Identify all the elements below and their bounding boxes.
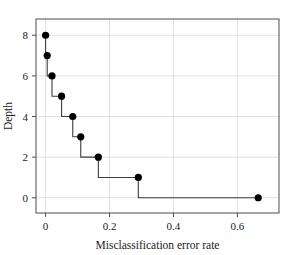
data-point (69, 113, 76, 120)
data-point (48, 72, 55, 79)
y-tick-label: 8 (23, 29, 29, 41)
chart-figure: 00.20.40.602468Misclassification error r… (0, 0, 292, 255)
y-axis-label: Depth (2, 102, 15, 130)
x-tick-label: 0.6 (231, 220, 245, 232)
y-tick-label: 2 (23, 151, 29, 163)
y-tick-label: 0 (23, 192, 29, 204)
data-point (255, 194, 262, 201)
data-point (95, 154, 102, 161)
x-axis-label: Misclassification error rate (96, 239, 220, 251)
data-point (135, 174, 142, 181)
x-tick-label: 0.4 (167, 220, 181, 232)
data-point (77, 133, 84, 140)
data-point (42, 32, 49, 39)
x-tick-label: 0.2 (103, 220, 117, 232)
data-point (44, 52, 51, 59)
y-tick-label: 4 (23, 111, 29, 123)
step-plot-canvas: 00.20.40.602468Misclassification error r… (0, 0, 292, 255)
x-tick-label: 0 (43, 220, 49, 232)
y-tick-label: 6 (23, 70, 29, 82)
data-point (58, 93, 65, 100)
